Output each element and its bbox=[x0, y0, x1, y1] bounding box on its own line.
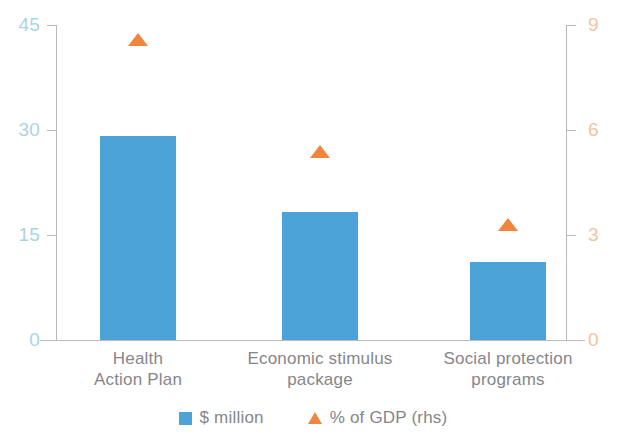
bottom-axis-line bbox=[40, 340, 585, 341]
category-label-health-action-plan: Health Action Plan bbox=[58, 348, 218, 390]
left-axis-label-45: 45 bbox=[0, 15, 40, 34]
category-line-2: programs bbox=[428, 369, 588, 390]
left-axis-tick-30 bbox=[47, 130, 56, 131]
left-axis-line bbox=[56, 25, 57, 341]
triangle-up-icon bbox=[308, 412, 322, 424]
legend-item-percent-of-gdp[interactable]: % of GDP (rhs) bbox=[308, 408, 448, 428]
right-axis-label-9: 9 bbox=[588, 15, 624, 34]
marker-health-action-plan[interactable] bbox=[128, 33, 148, 46]
right-axis-label-3: 3 bbox=[588, 225, 624, 244]
left-axis-tick-0 bbox=[47, 340, 56, 341]
left-axis-label-0: 0 bbox=[0, 330, 40, 349]
category-line-1: Social protection bbox=[428, 348, 588, 369]
left-axis-tick-45 bbox=[47, 25, 56, 26]
legend-item-dollar-million[interactable]: $ million bbox=[179, 408, 264, 428]
category-line-1: Health bbox=[58, 348, 218, 369]
right-axis-tick-3 bbox=[567, 235, 576, 236]
marker-economic-stimulus[interactable] bbox=[310, 145, 330, 158]
legend-label-dollar-million: $ million bbox=[200, 408, 264, 428]
bar-social-protection[interactable] bbox=[470, 262, 546, 340]
right-axis-label-6: 6 bbox=[588, 120, 624, 139]
left-axis-tick-15 bbox=[47, 235, 56, 236]
bar-health-action-plan[interactable] bbox=[100, 136, 176, 340]
bar-economic-stimulus[interactable] bbox=[282, 212, 358, 340]
square-icon bbox=[179, 412, 192, 425]
right-axis-label-0: 0 bbox=[588, 330, 624, 349]
category-line-1: Economic stimulus bbox=[240, 348, 400, 369]
category-line-2: package bbox=[240, 369, 400, 390]
right-axis-tick-0 bbox=[567, 340, 576, 341]
legend-label-percent-of-gdp: % of GDP (rhs) bbox=[330, 408, 448, 428]
chart-container: 45 30 15 0 9 6 3 0 Health Action Plan Ec… bbox=[0, 0, 626, 435]
category-label-social-protection: Social protection programs bbox=[428, 348, 588, 390]
right-axis-tick-6 bbox=[567, 130, 576, 131]
category-line-2: Action Plan bbox=[58, 369, 218, 390]
left-axis-label-15: 15 bbox=[0, 225, 40, 244]
chart-legend: $ million % of GDP (rhs) bbox=[0, 408, 626, 428]
right-axis-tick-9 bbox=[567, 25, 576, 26]
category-label-economic-stimulus: Economic stimulus package bbox=[240, 348, 400, 390]
marker-social-protection[interactable] bbox=[498, 218, 518, 231]
left-axis-label-30: 30 bbox=[0, 120, 40, 139]
right-axis-line bbox=[566, 25, 567, 341]
